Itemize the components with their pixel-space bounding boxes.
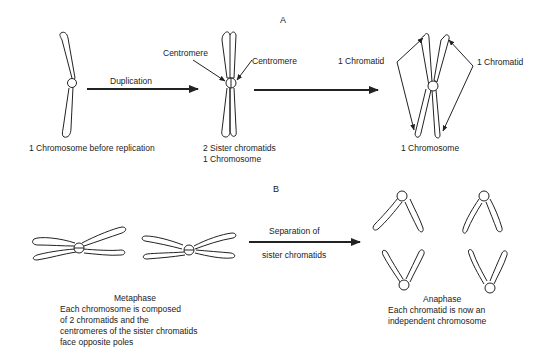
- sister-chromatids: [222, 32, 237, 137]
- anaphase-desc-line1: Each chromatid is now an: [388, 305, 485, 316]
- metaphase-title: Metaphase: [114, 293, 156, 304]
- metaphase-chromosome-1: [33, 227, 126, 260]
- stage3-caption: 1 Chromosome: [401, 143, 459, 154]
- stage2-caption-line1: 2 Sister chromatids: [203, 143, 276, 154]
- chromosome-diagram: A Duplication 1 Chromosome before replic…: [0, 0, 556, 352]
- anaphase-chromatid-bottom-left: [382, 250, 424, 290]
- separation-label-line2: sister chromatids: [262, 250, 326, 261]
- x-shaped-chromosome: [415, 34, 449, 138]
- centromere-label-right: Centromere: [252, 56, 297, 67]
- metaphase-chromosome-2: [142, 233, 236, 259]
- stage1-caption: 1 Chromosome before replication: [29, 143, 155, 154]
- chromatid-label-right: 1 Chromatid: [477, 57, 523, 68]
- section-b-label: B: [273, 184, 279, 195]
- diagram-graphics: [0, 0, 556, 352]
- metaphase-desc-line3: centromeres of the sister chromatids: [60, 326, 197, 337]
- anaphase-title: Anaphase: [423, 294, 461, 305]
- stage2-caption-line2: 1 Chromosome: [203, 154, 261, 165]
- anaphase-chromatid-bottom-right: [468, 250, 507, 293]
- metaphase-desc-line1: Each chromosome is composed: [60, 304, 181, 315]
- centromere-pointer-left: [193, 60, 225, 81]
- separation-label-line1: Separation of: [269, 226, 320, 237]
- chromatid-label-left: 1 Chromatid: [338, 56, 384, 67]
- section-a-label: A: [280, 15, 286, 26]
- metaphase-desc-line4: face opposite poles: [60, 337, 133, 348]
- anaphase-chromatid-top-right: [463, 191, 502, 233]
- anaphase-desc-line2: independent chromosome: [388, 316, 486, 327]
- centromere-pointer-right: [237, 60, 252, 80]
- anaphase-chromatid-top-left: [373, 191, 423, 232]
- centromere-label-left: Centromere: [163, 48, 208, 59]
- single-chromosome: [60, 32, 77, 137]
- duplication-label: Duplication: [110, 76, 152, 87]
- metaphase-desc-line2: of 2 chromatids and the: [60, 315, 149, 326]
